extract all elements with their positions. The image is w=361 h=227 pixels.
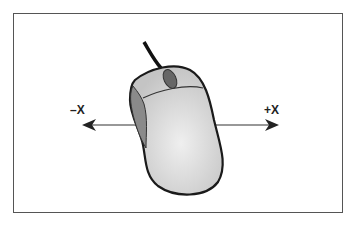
mouse-cable	[144, 42, 161, 68]
mouse-icon	[130, 66, 223, 194]
positive-x-label: +X	[264, 103, 279, 117]
negative-x-label: –X	[70, 103, 85, 117]
mouse-x-axis-diagram	[0, 0, 361, 227]
